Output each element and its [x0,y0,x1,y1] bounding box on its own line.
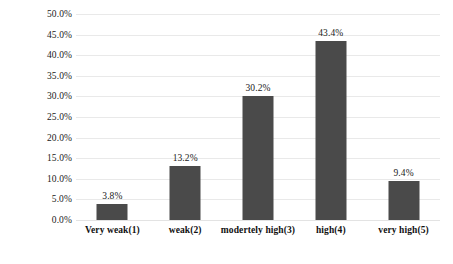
y-axis-tick-label: 30.0% [0,91,72,101]
bar-value-label: 3.8% [102,191,122,202]
y-axis-tick-label: 50.0% [0,9,72,19]
y-axis-tick-label: 0.0% [0,215,72,225]
x-axis-tick-label: high(4) [291,224,371,236]
bar-chart: 50.0%45.0%40.0%35.0%30.0%25.0%20.0%15.0%… [0,0,453,264]
y-axis-tick-label: 40.0% [0,50,72,60]
bar-value-label: 13.2% [173,153,198,164]
bar [242,96,273,220]
y-axis-tick-label: 15.0% [0,153,72,163]
y-axis-tick-label: 45.0% [0,30,72,40]
bar-group: 13.2% [149,14,222,220]
bar-group: 43.4% [294,14,367,220]
bar-value-label: 30.2% [245,83,270,94]
bar-group: 9.4% [367,14,440,220]
bar [315,41,346,220]
x-axis-tick-label: very high(5) [364,224,444,236]
x-axis-tick-label: modertely high(3) [218,224,298,236]
x-axis-labels: Very weak(1)weak(2)modertely high(3)high… [76,224,440,264]
plot-area: 3.8%13.2%30.2%43.4%9.4% [76,14,440,220]
bar-group: 30.2% [222,14,295,220]
bar-series: 3.8%13.2%30.2%43.4%9.4% [76,14,440,220]
bar [388,181,419,220]
y-axis-tick-label: 35.0% [0,71,72,81]
bar-value-label: 9.4% [393,168,413,179]
bar-value-label: 43.4% [318,28,343,39]
bar [97,204,128,220]
y-axis-tick-label: 25.0% [0,112,72,122]
gridline [76,220,440,221]
y-axis-labels: 50.0%45.0%40.0%35.0%30.0%25.0%20.0%15.0%… [0,0,72,264]
y-axis-tick-label: 20.0% [0,133,72,143]
y-axis-tick-label: 10.0% [0,174,72,184]
x-axis-tick-label: Very weak(1) [72,224,152,236]
x-axis-tick-label: weak(2) [145,224,225,236]
bar [170,166,201,220]
bar-group: 3.8% [76,14,149,220]
y-axis-tick-label: 5.0% [0,194,72,204]
